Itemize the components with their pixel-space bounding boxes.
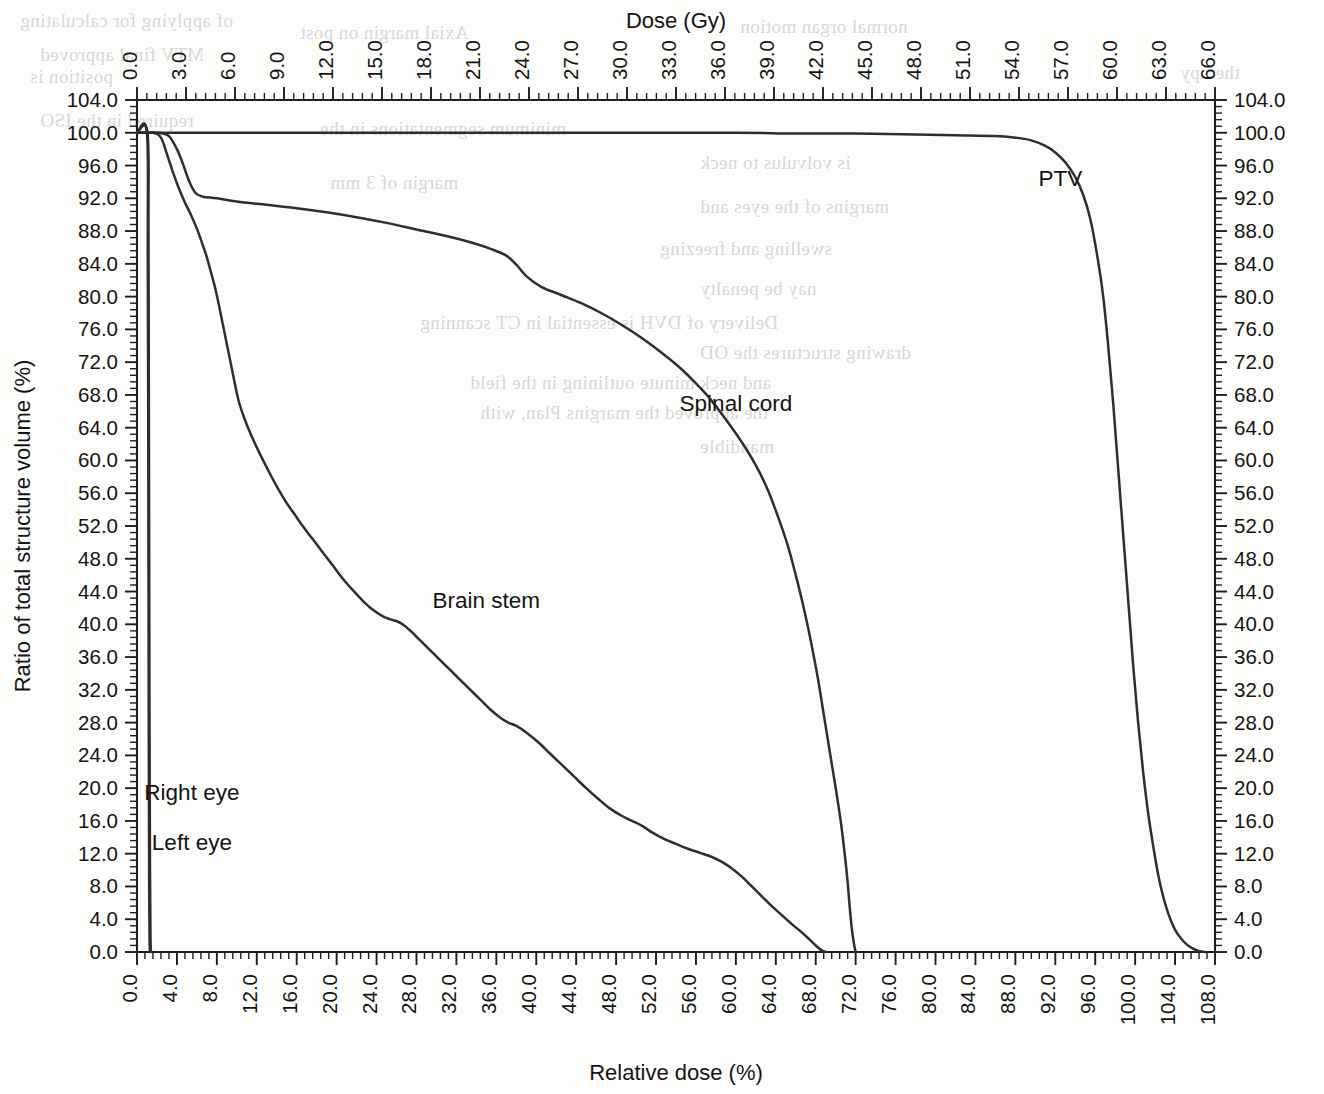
right-axis-tick-label: 96.0 — [1234, 154, 1274, 177]
bottom-axis-tick-label: 76.0 — [877, 974, 900, 1014]
left-axis-tick-label: 104.0 — [67, 88, 118, 111]
right-axis-tick-label: 8.0 — [1234, 874, 1263, 897]
curve-label-spinal-cord: Spinal cord — [680, 391, 793, 416]
top-axis-tick-label: 9.0 — [265, 52, 288, 81]
top-axis-tick-label: 15.0 — [363, 40, 386, 80]
bottom-axis-tick-label: 0.0 — [118, 974, 141, 1003]
bottom-axis-tick-label: 8.0 — [198, 974, 221, 1003]
plot-border — [137, 100, 1215, 952]
right-axis-tick-label: 20.0 — [1234, 776, 1274, 799]
left-axis-tick-label: 24.0 — [78, 743, 118, 766]
top-axis-tick-label: 18.0 — [412, 40, 435, 80]
bottom-axis-tick-label: 20.0 — [318, 974, 341, 1014]
left-axis-tick-label: 88.0 — [78, 219, 118, 242]
top-axis-tick-label: 3.0 — [167, 52, 190, 81]
bottom-axis-tick-label: 36.0 — [477, 974, 500, 1014]
bottom-axis-tick-label: 4.0 — [158, 974, 181, 1003]
bottom-axis-tick-label: 64.0 — [757, 974, 780, 1014]
left-axis-tick-label: 76.0 — [78, 317, 118, 340]
curve-brain-stem — [137, 132, 826, 952]
left-axis-tick-label: 16.0 — [78, 809, 118, 832]
right-axis-tick-label: 104.0 — [1234, 88, 1285, 111]
top-axis-tick-label: 6.0 — [216, 52, 239, 81]
left-axis-tick-label: 36.0 — [78, 645, 118, 668]
right-axis-tick-label: 48.0 — [1234, 547, 1274, 570]
left-axis-tick-label: 8.0 — [90, 874, 119, 897]
right-axis-tick-label: 100.0 — [1234, 121, 1285, 144]
left-axis-tick-label: 12.0 — [78, 842, 118, 865]
top-axis-tick-label: 42.0 — [804, 40, 827, 80]
bottom-axis-tick-label: 56.0 — [677, 974, 700, 1014]
top-axis-tick-label: 27.0 — [559, 40, 582, 80]
left-axis-tick-label: 56.0 — [78, 481, 118, 504]
bottom-axis-tick-label: 28.0 — [397, 974, 420, 1014]
bottom-axis-tick-label: 60.0 — [717, 974, 740, 1014]
y-axis-title: Ratio of total structure volume (%) — [10, 360, 35, 693]
top-axis-tick-label: 0.0 — [118, 52, 141, 81]
right-axis-tick-label: 28.0 — [1234, 711, 1274, 734]
curve-label-left-eye: Left eye — [152, 830, 232, 855]
bottom-axis-tick-label: 100.0 — [1116, 974, 1139, 1025]
right-axis-tick-label: 52.0 — [1234, 514, 1274, 537]
bottom-axis-tick-label: 52.0 — [637, 974, 660, 1014]
top-axis-title: Dose (Gy) — [626, 8, 726, 33]
bottom-axis-tick-label: 32.0 — [437, 974, 460, 1014]
bottom-axis-tick-label: 16.0 — [278, 974, 301, 1014]
dvh-chart: 0.03.06.09.012.015.018.021.024.027.030.0… — [0, 0, 1324, 1094]
left-axis-tick-label: 20.0 — [78, 776, 118, 799]
right-axis-tick-label: 72.0 — [1234, 350, 1274, 373]
left-axis-tick-label: 80.0 — [78, 285, 118, 308]
top-axis-tick-label: 36.0 — [706, 40, 729, 80]
right-axis-tick-label: 36.0 — [1234, 645, 1274, 668]
dvh-curves — [137, 123, 1205, 952]
bottom-axis-tick-label: 44.0 — [557, 974, 580, 1014]
right-axis-tick-label: 76.0 — [1234, 317, 1274, 340]
right-axis-tick-label: 24.0 — [1234, 743, 1274, 766]
right-axis-tick-label: 92.0 — [1234, 186, 1274, 209]
top-axis-tick-label: 39.0 — [755, 40, 778, 80]
left-axis-tick-label: 32.0 — [78, 678, 118, 701]
curve-label-right-eye: Right eye — [144, 780, 239, 805]
bottom-axis-tick-label: 108.0 — [1196, 974, 1219, 1025]
right-axis-tick-label: 32.0 — [1234, 678, 1274, 701]
left-axis-tick-label: 52.0 — [78, 514, 118, 537]
bottom-axis-tick-label: 88.0 — [996, 974, 1019, 1014]
left-axis-tick-label: 84.0 — [78, 252, 118, 275]
top-axis-tick-label: 12.0 — [314, 40, 337, 80]
right-axis-tick-label: 80.0 — [1234, 285, 1274, 308]
right-axis-tick-label: 16.0 — [1234, 809, 1274, 832]
bottom-axis-tick-label: 24.0 — [358, 974, 381, 1014]
right-axis-tick-label: 60.0 — [1234, 448, 1274, 471]
right-axis-tick-label: 4.0 — [1234, 907, 1263, 930]
curve-label-ptv: PTV — [1038, 166, 1082, 191]
bottom-axis-tick-label: 72.0 — [837, 974, 860, 1014]
top-axis-tick-label: 21.0 — [461, 40, 484, 80]
bottom-axis-tick-label: 96.0 — [1076, 974, 1099, 1014]
left-axis-tick-label: 4.0 — [90, 907, 119, 930]
top-axis-tick-label: 54.0 — [1000, 40, 1023, 80]
curve-spinal-cord — [137, 133, 856, 952]
top-axis-tick-label: 66.0 — [1196, 40, 1219, 80]
top-axis-tick-label: 57.0 — [1049, 40, 1072, 80]
left-axis-tick-label: 92.0 — [78, 186, 118, 209]
top-axis-tick-label: 33.0 — [657, 40, 680, 80]
left-axis-tick-label: 68.0 — [78, 383, 118, 406]
top-axis-tick-label: 30.0 — [608, 40, 631, 80]
left-axis-tick-label: 60.0 — [78, 448, 118, 471]
left-axis-tick-label: 72.0 — [78, 350, 118, 373]
top-axis-tick-label: 51.0 — [951, 40, 974, 80]
top-axis-tick-label: 60.0 — [1098, 40, 1121, 80]
axis-and-curve-labels: 0.03.06.09.012.015.018.021.024.027.030.0… — [10, 8, 1285, 1085]
left-axis-tick-label: 0.0 — [90, 940, 119, 963]
right-axis-tick-label: 64.0 — [1234, 416, 1274, 439]
left-axis-tick-label: 40.0 — [78, 612, 118, 635]
right-axis-tick-label: 84.0 — [1234, 252, 1274, 275]
top-axis-tick-label: 24.0 — [510, 40, 533, 80]
left-axis-tick-label: 48.0 — [78, 547, 118, 570]
bottom-axis-tick-label: 40.0 — [517, 974, 540, 1014]
top-axis-tick-label: 45.0 — [853, 40, 876, 80]
right-axis-tick-label: 0.0 — [1234, 940, 1263, 963]
bottom-axis-tick-label: 68.0 — [797, 974, 820, 1014]
curve-left-eye — [137, 123, 150, 952]
axis-ticks — [125, 87, 1227, 965]
